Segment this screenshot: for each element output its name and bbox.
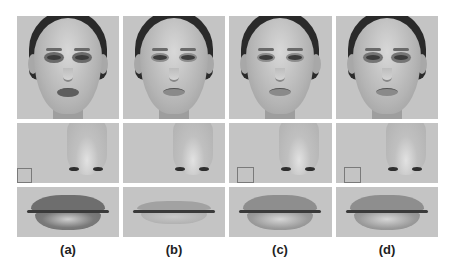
brow-left [46,48,62,51]
lip-line [346,210,428,213]
head [34,18,102,114]
nose-closeup-c [229,123,332,183]
nose-closeup-a [17,123,119,183]
brow-right [74,48,90,51]
lip-line [239,210,321,213]
nostril-left [175,167,185,171]
face-image-b [123,16,225,119]
face-image-d [336,16,438,119]
nose [382,68,392,82]
sample-region-box [237,167,254,183]
nostril-right [199,167,209,171]
subfigure-label-a: (a) [17,242,119,257]
nose [169,68,179,82]
head [140,18,208,114]
brow-right [287,48,303,51]
nose [275,68,285,82]
eye-right [394,55,408,60]
nose-closeup-d [336,123,438,183]
eye-left [153,55,167,60]
nostril-left [69,167,79,171]
brow-left [152,48,168,51]
nostril-left [281,167,291,171]
upper-lip [243,195,317,211]
head [353,18,421,114]
nostril-right [412,167,422,171]
head [246,18,314,114]
eye-right [288,55,302,60]
nostril-right [93,167,103,171]
mouth [376,88,398,96]
lips-closeup-c [229,187,332,237]
subfigure-label-b: (b) [123,242,225,257]
sample-region-box [344,167,361,183]
nostril-right [305,167,315,171]
lips-closeup-d [336,187,438,237]
eye-left [259,55,273,60]
mouth [269,88,291,96]
eye-right [75,55,89,60]
brow-right [393,48,409,51]
nostril-left [388,167,398,171]
lower-lip [247,212,313,230]
sample-region-box [17,168,32,183]
lower-lip [35,212,101,230]
face-image-c [229,16,332,119]
eye-right [181,55,195,60]
lips-closeup-a [17,187,119,237]
upper-lip [350,195,424,211]
brow-left [365,48,381,51]
eye-left [47,55,61,60]
mouth [163,88,185,96]
face-image-a [17,16,119,119]
lower-lip [141,212,207,224]
lips-closeup-b [123,187,225,237]
nose-closeup-b [123,123,225,183]
upper-lip [31,195,105,211]
subfigure-label-c: (c) [229,242,331,257]
eye-left [366,55,380,60]
nose [63,68,73,82]
brow-left [258,48,274,51]
lip-line [27,210,109,213]
mouth [57,88,79,97]
subfigure-label-d: (d) [336,242,438,257]
lower-lip [354,212,420,230]
lip-line [133,210,215,213]
brow-right [180,48,196,51]
upper-lip [137,201,211,210]
